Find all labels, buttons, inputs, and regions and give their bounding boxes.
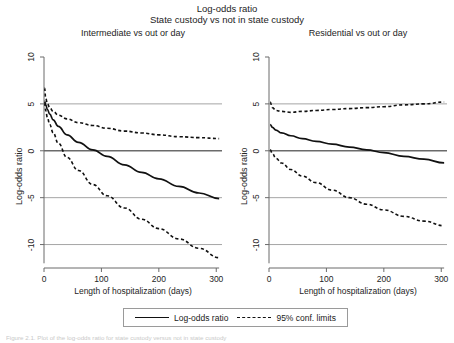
panel-title-right: Residential vs out or day xyxy=(268,28,448,38)
x-tick-label-200: 200 xyxy=(146,274,172,284)
series-right-2 xyxy=(270,150,444,226)
y-tick-label-10: 10 xyxy=(251,46,261,68)
series-right-1 xyxy=(270,102,444,112)
x-tick-label-100: 100 xyxy=(313,274,339,284)
x-tick-label-0: 0 xyxy=(31,274,57,284)
y-tick-label--5: -5 xyxy=(26,187,36,209)
figure-caption: Figure 2.1. Plot of the log-odds ratio f… xyxy=(6,334,452,342)
x-tick-label-0: 0 xyxy=(256,274,282,284)
figure-title-line-2: State custody vs not in state custody xyxy=(0,14,454,25)
y-tick-label-0: 0 xyxy=(26,140,36,162)
x-axis-label-right: Length of hospitalization (days) xyxy=(268,286,448,296)
y-tick-label--10: -10 xyxy=(251,234,261,256)
y-tick-label-5: 5 xyxy=(251,93,261,115)
panel-title-left: Intermediate vs out or day xyxy=(43,28,223,38)
y-tick-label--5: -5 xyxy=(251,187,261,209)
series-left-0 xyxy=(45,101,220,199)
dashed-line-swatch xyxy=(237,317,271,318)
legend-entry-log-odds-ratio: Log-odds ratio xyxy=(135,313,228,323)
x-axis-label-left: Length of hospitalization (days) xyxy=(43,286,223,296)
figure-title-line-1: Log-odds ratio xyxy=(0,3,454,14)
x-tick-label-300: 300 xyxy=(203,274,229,284)
figure-container: Log-odds ratio State custody vs not in s… xyxy=(0,0,454,343)
y-axis-label-right: Log-odds ratio xyxy=(239,147,249,205)
legend: Log-odds ratio 95% conf. limits xyxy=(123,308,348,327)
x-tick-label-300: 300 xyxy=(428,274,454,284)
series-right-0 xyxy=(270,125,444,163)
legend-entry-conf-limits: 95% conf. limits xyxy=(237,313,336,323)
panel-left xyxy=(40,57,222,272)
y-tick-label-0: 0 xyxy=(251,140,261,162)
legend-label-conf-limits: 95% conf. limits xyxy=(276,313,336,323)
y-tick-label-10: 10 xyxy=(26,46,36,68)
series-left-2 xyxy=(45,103,220,258)
y-axis-label-left: Log-odds ratio xyxy=(14,147,24,205)
x-tick-label-200: 200 xyxy=(371,274,397,284)
y-tick-label--10: -10 xyxy=(26,234,36,256)
legend-label-log-odds-ratio: Log-odds ratio xyxy=(174,313,228,323)
x-tick-label-100: 100 xyxy=(88,274,114,284)
y-tick-label-5: 5 xyxy=(26,93,36,115)
panel-right xyxy=(265,57,447,272)
series-left-1 xyxy=(45,88,220,139)
solid-line-swatch xyxy=(135,317,169,318)
